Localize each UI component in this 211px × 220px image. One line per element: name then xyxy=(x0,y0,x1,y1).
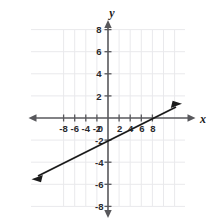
x-tick-label: -4 xyxy=(82,123,91,134)
x-axis-label: x xyxy=(199,112,206,126)
line-arrow-start-icon xyxy=(32,175,43,182)
x-tick-label: 8 xyxy=(150,123,155,134)
y-tick-label: -4 xyxy=(95,157,104,168)
plotted-line-group xyxy=(32,101,183,182)
x-axis-arrow-right-icon xyxy=(188,114,196,121)
line-graph-svg: -8 -6 -4 -2 2 4 6 8 8 6 4 2 -2 -4 -6 -8 … xyxy=(0,0,211,220)
y-tick-label: -6 xyxy=(95,179,103,190)
line-arrow-end-icon xyxy=(171,101,182,108)
y-tick-label: 6 xyxy=(96,46,101,57)
axes xyxy=(29,20,196,218)
y-tick-label: 4 xyxy=(96,68,102,79)
y-tick-label: -8 xyxy=(95,201,103,212)
x-axis-arrow-left-icon xyxy=(29,114,37,121)
x-tick-label: -8 xyxy=(59,123,67,134)
coordinate-plane-figure: -8 -6 -4 -2 2 4 6 8 8 6 4 2 -2 -4 -6 -8 … xyxy=(0,0,211,220)
origin-label: 0 xyxy=(98,123,103,134)
x-tick-label: 2 xyxy=(117,123,122,134)
y-axis-arrow-up-icon xyxy=(104,20,111,28)
y-tick-label: 8 xyxy=(96,24,101,35)
x-tick-label: -6 xyxy=(70,123,78,134)
y-axis-label: y xyxy=(107,6,115,20)
y-axis-arrow-down-icon xyxy=(104,210,111,218)
y-tick-label: 2 xyxy=(96,91,101,102)
